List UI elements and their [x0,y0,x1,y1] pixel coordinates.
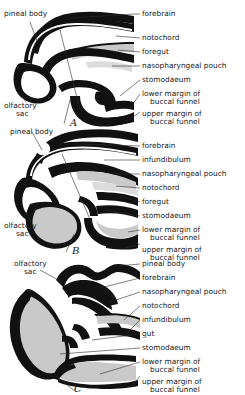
panel-a-label-foregut: foregut [142,47,169,56]
panel-b-label-stomodaeum: stomodaeum [142,211,191,220]
panel-b-label-notochord: notochord [142,183,180,192]
panel-c-label-infundibulum: infundibulum [142,315,191,324]
panel-c-label-pineal-body: pineal body [142,259,186,268]
panel-a-label-upper-buccal-2: buccal funnel [150,117,200,126]
panel-a-label-nasopharyngeal-pouch: nasopharyngeal pouch [142,61,227,70]
panel-b-label-lower-buccal-2: buccal funnel [150,233,200,242]
panel-c-letter: C [74,383,82,394]
panel-c-label-lower-buccal-2: buccal funnel [150,365,200,374]
panel-a-label-notochord: notochord [142,33,180,42]
panel-a-label-olfactory-2: sac [16,109,28,118]
panel-a-label-pineal-body: pineal body [4,9,48,18]
panel-c-label-gut: gut [142,329,154,338]
panel-b-label-foregut: foregut [142,197,169,206]
panel-c-label-nasopharyngeal-pouch: nasopharyngeal pouch [142,287,227,296]
panel-b-label-forebrain: forebrain [142,141,176,150]
panel-a-label-stomodaeum: stomodaeum [142,75,191,84]
panel-c-label-upper-buccal-2: buccal funnel [150,385,200,394]
panel-c-label-forebrain: forebrain [142,273,176,282]
panel-b-letter: B [71,245,79,256]
panel-a-letter: A [69,117,77,128]
anatomical-figure: forebrain notochord foregut nasopharynge… [0,0,245,395]
panel-c-label-stomodaeum: stomodaeum [142,343,191,352]
panel-b-label-pineal-body: pineal body [10,127,54,136]
panel-a-label-lower-buccal-2: buccal funnel [150,97,200,106]
panel-c-label-notochord: notochord [142,301,180,310]
panel-b-label-infundibulum: infundibulum [142,155,191,164]
panel-b-label-olfactory-2: sac [16,229,28,238]
panel-b-label-nasopharyngeal-pouch: nasopharyngeal pouch [142,169,227,178]
panel-c-label-olfactory-2: sac [24,267,36,276]
panel-a-label-forebrain: forebrain [142,9,176,18]
